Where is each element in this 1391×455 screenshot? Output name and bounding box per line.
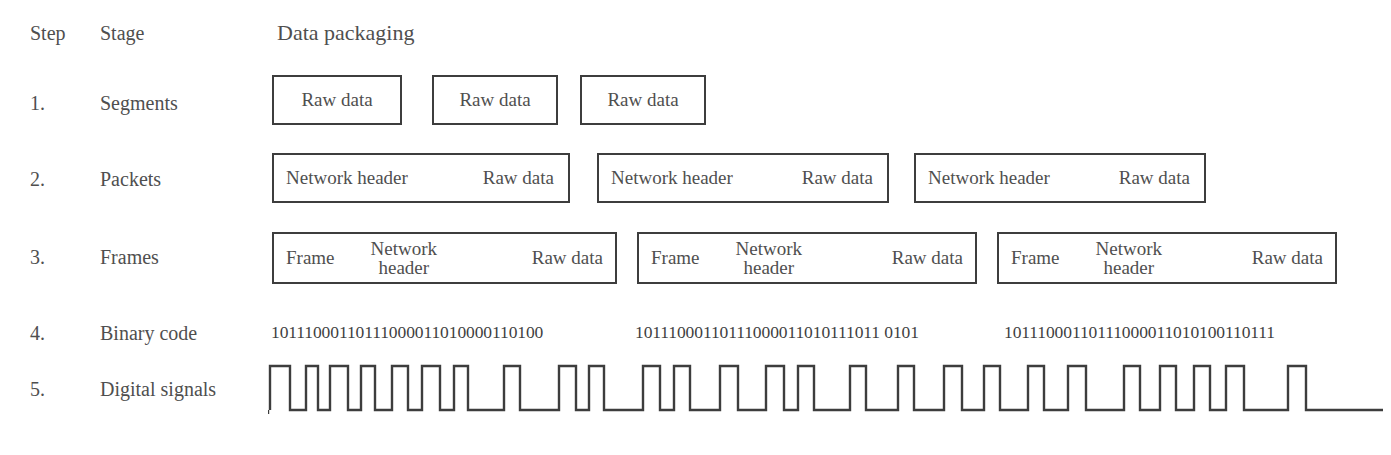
packet-raw-data-label: Raw data: [483, 167, 554, 189]
packet-box: Network header Raw data: [914, 153, 1206, 203]
binary-string: 10111000110111000011010100110111: [1004, 322, 1275, 343]
row-stage-binary-code: Binary code: [100, 322, 270, 345]
frame-network-header-line1: Network: [736, 238, 802, 259]
binary-string: 10111000110111000011010111011 0101: [635, 322, 919, 343]
row-stage-frames: Frames: [100, 246, 270, 269]
frame-box: Frame Network header Raw data: [637, 232, 977, 284]
header-stage: Stage: [100, 22, 270, 45]
frame-raw-data-label: Raw data: [1252, 247, 1323, 269]
packet-network-header-label: Network header: [928, 167, 1050, 189]
packet-network-header-label: Network header: [286, 167, 408, 189]
frame-box: Frame Network header Raw data: [997, 232, 1337, 284]
row-stage-packets: Packets: [100, 168, 270, 191]
row-step-2: 2.: [30, 168, 90, 191]
frame-label: Frame: [1011, 247, 1060, 269]
segment-box: Raw data: [272, 75, 402, 125]
frame-network-header-label: Network header: [371, 239, 437, 278]
diagram-canvas: Step Stage Data packaging 1. Segments Ra…: [0, 0, 1391, 455]
frame-network-header-label: Network header: [736, 239, 802, 278]
frame-network-header-line2: header: [1103, 257, 1154, 278]
header-data-packaging: Data packaging: [277, 20, 414, 46]
packet-raw-data-label: Raw data: [802, 167, 873, 189]
frame-network-header-line2: header: [743, 257, 794, 278]
frame-network-header-line1: Network: [1096, 238, 1162, 259]
digital-signal-waveform: [268, 358, 1383, 420]
packet-raw-data-label: Raw data: [1119, 167, 1190, 189]
segment-box: Raw data: [580, 75, 706, 125]
frame-raw-data-label: Raw data: [892, 247, 963, 269]
row-step-5: 5.: [30, 378, 90, 401]
segment-raw-data-label: Raw data: [301, 89, 372, 111]
frame-network-header-label: Network header: [1096, 239, 1162, 278]
segment-raw-data-label: Raw data: [459, 89, 530, 111]
segment-raw-data-label: Raw data: [607, 89, 678, 111]
frame-raw-data-label: Raw data: [532, 247, 603, 269]
packet-network-header-label: Network header: [611, 167, 733, 189]
binary-string: 10111000110111000011010000110100: [271, 322, 543, 343]
frame-label: Frame: [286, 247, 335, 269]
frame-network-header-line1: Network: [371, 238, 437, 259]
row-step-3: 3.: [30, 246, 90, 269]
row-stage-digital-signals: Digital signals: [100, 378, 270, 401]
row-step-4: 4.: [30, 322, 90, 345]
row-stage-segments: Segments: [100, 92, 270, 115]
row-step-1: 1.: [30, 92, 90, 115]
frame-label: Frame: [651, 247, 700, 269]
packet-box: Network header Raw data: [597, 153, 889, 203]
frame-box: Frame Network header Raw data: [272, 232, 617, 284]
segment-box: Raw data: [432, 75, 558, 125]
frame-network-header-line2: header: [378, 257, 429, 278]
packet-box: Network header Raw data: [272, 153, 570, 203]
header-step: Step: [30, 22, 90, 45]
